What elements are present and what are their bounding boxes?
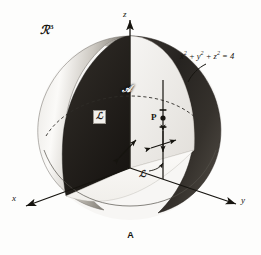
equation-plus-2: + <box>206 51 212 61</box>
point-P-dot <box>160 115 165 120</box>
equation-plus-1: + <box>189 51 195 61</box>
space-label-R3: ℛ3 <box>40 24 54 36</box>
region-label-L-boxed: ℒ <box>93 110 106 124</box>
equation-x-exp: 2 <box>184 50 187 56</box>
figure-caption: A <box>0 230 261 240</box>
region-label-A: 𝒜 <box>122 84 131 94</box>
surface-equation-label: x2 + y2 + z2 = 4 <box>180 50 234 60</box>
equation-z-exp: 2 <box>217 50 220 56</box>
point-label-P: P <box>151 113 157 122</box>
axis-label-z: z <box>123 10 127 19</box>
equation-rhs: 4 <box>230 51 234 61</box>
axis-label-y: y <box>241 196 245 205</box>
axis-label-x: x <box>12 194 16 203</box>
space-label-exponent: 3 <box>50 23 54 31</box>
equation-y-exp: 2 <box>201 50 204 56</box>
line-label-L: ℒ <box>139 170 146 180</box>
sphere-diagram-svg <box>0 0 261 255</box>
space-label-base: ℛ <box>40 23 50 37</box>
figure-3d-sphere-diagram: ℛ3 x2 + y2 + z2 = 4 z x y 𝒜 ℒ P ℒ A <box>0 0 261 255</box>
equation-equals: = <box>222 51 228 61</box>
